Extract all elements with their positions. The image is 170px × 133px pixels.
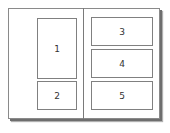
panel-2: 2 [37, 81, 77, 110]
panel-label: 4 [119, 59, 125, 69]
column-divider [83, 8, 84, 119]
panel-label: 3 [119, 27, 125, 37]
panel-label: 2 [54, 91, 60, 101]
panel-3: 3 [91, 17, 153, 46]
panel-1: 1 [37, 18, 77, 79]
panel-5: 5 [91, 81, 153, 110]
panel-label: 1 [54, 44, 60, 54]
panel-label: 5 [119, 91, 125, 101]
panel-4: 4 [91, 49, 153, 78]
